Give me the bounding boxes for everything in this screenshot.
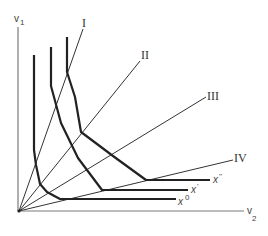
svg-text:x: x <box>212 174 219 185</box>
isoquant-label-x0: x 0 <box>177 193 190 207</box>
v1-axis-label: v 1 <box>14 13 25 27</box>
svg-text:x: x <box>177 196 184 207</box>
ray-III <box>19 97 206 211</box>
isoquant-diagram: I II III IV v 1 v 2 x 0 x ' x '' <box>0 0 268 236</box>
svg-text:x: x <box>190 184 197 195</box>
svg-text:'': '' <box>219 172 223 181</box>
ray-label-IV: IV <box>234 151 247 165</box>
origin-point <box>17 209 20 212</box>
isoquant-x0 <box>34 55 176 199</box>
svg-text:0: 0 <box>185 193 190 202</box>
svg-text:': ' <box>197 182 199 191</box>
isoquant-x-prime <box>51 47 188 190</box>
ray-label-III: III <box>207 89 219 103</box>
isoquant-label-x-double-prime: x '' <box>212 172 223 185</box>
svg-text:1: 1 <box>20 18 25 27</box>
ray-II <box>19 61 140 211</box>
ray-label-I: I <box>82 16 86 30</box>
isoquant-x-double-prime <box>67 37 210 180</box>
v2-axis-label: v 2 <box>247 205 257 223</box>
svg-text:2: 2 <box>252 214 257 223</box>
ray-label-II: II <box>141 48 149 62</box>
svg-text:v: v <box>14 13 19 24</box>
isoquant-label-x-prime: x ' <box>190 182 199 195</box>
ray-IV <box>19 160 233 211</box>
